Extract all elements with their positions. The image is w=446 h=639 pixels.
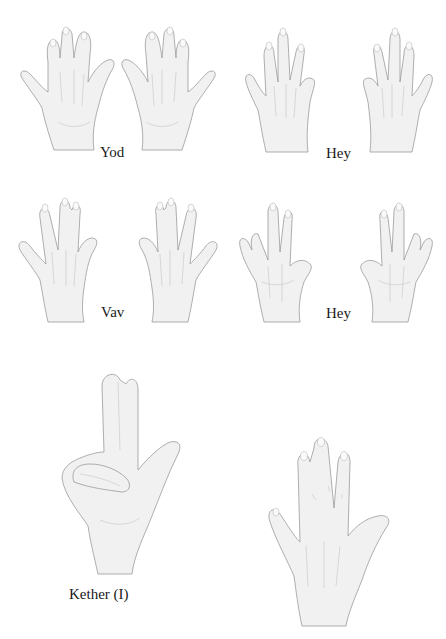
cropped-running-header: · · · · ·	[372, 0, 446, 3]
single-hand-back-illustration	[268, 436, 408, 628]
right-hand-back-icon	[363, 28, 432, 152]
caption-hey-1: Hey	[326, 146, 351, 161]
figure-yod	[18, 22, 218, 154]
hand-back-icon	[269, 438, 389, 627]
left-hand-back-icon	[246, 28, 315, 152]
right-hand-back-icon	[139, 198, 217, 322]
left-hand-back-icon	[19, 198, 97, 322]
hand-kether-gesture-illustration	[60, 370, 196, 576]
caption-hey-2: Hey	[326, 306, 351, 321]
raised-two-fingers-hand-icon	[62, 374, 180, 574]
hand-pair-yod-illustration	[18, 22, 218, 154]
caption-yod: Yod	[100, 145, 124, 160]
caption-vav: Vav	[101, 305, 124, 320]
caption-kether: Kether (I)	[69, 587, 129, 602]
right-hand-back-icon	[122, 27, 215, 150]
figure-kether	[60, 370, 196, 576]
page: · · · · · Yod	[0, 0, 446, 639]
figure-single-hand	[268, 436, 408, 628]
hand-pair-hey-illustration	[244, 26, 434, 154]
right-hand-palm-icon	[361, 203, 433, 322]
left-hand-palm-icon	[240, 203, 312, 322]
left-hand-back-icon	[21, 27, 114, 150]
figure-hey-1	[244, 26, 434, 154]
